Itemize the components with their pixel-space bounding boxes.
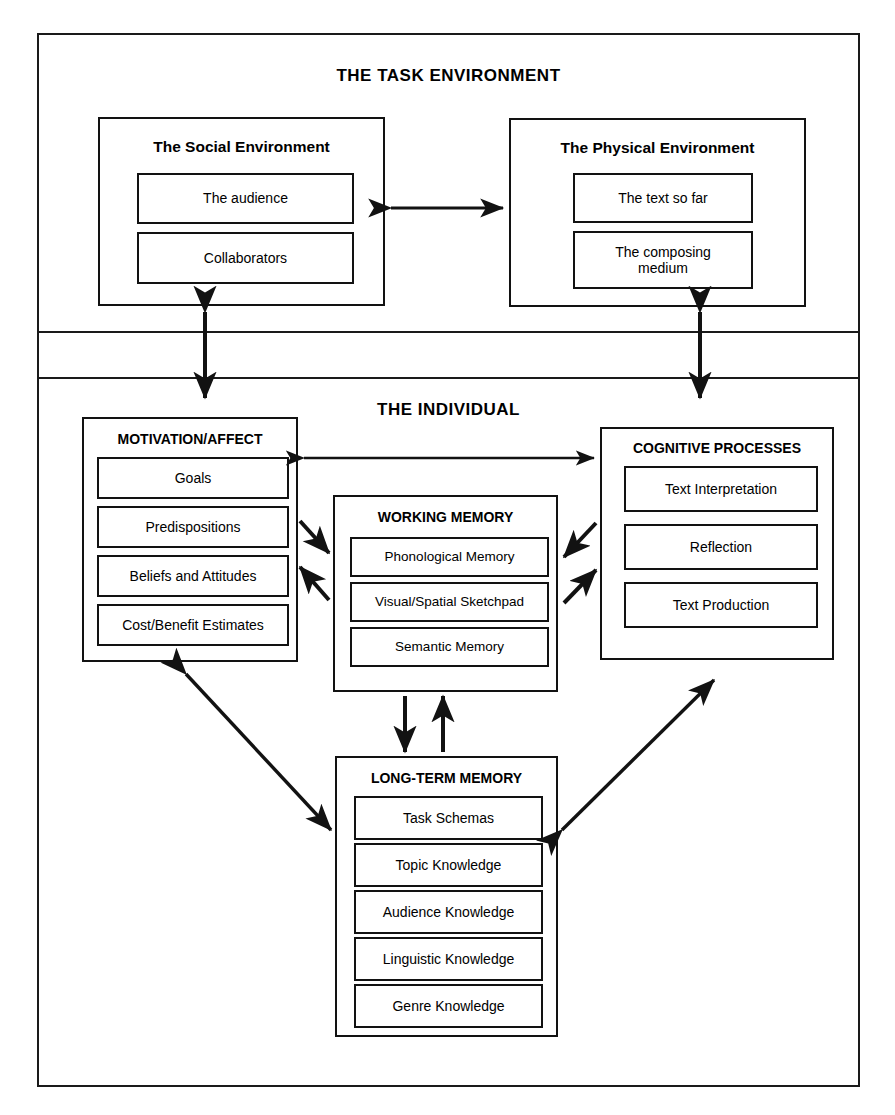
social-item-collaborators: Collaborators xyxy=(137,232,354,284)
divider-lower xyxy=(37,377,860,379)
cognitive-item-text-interpretation: Text Interpretation xyxy=(624,466,818,512)
social-environment-panel: The Social Environment The audience Coll… xyxy=(98,117,385,306)
composing-medium-line2: medium xyxy=(638,260,688,276)
physical-item-composing-medium: The composing medium xyxy=(573,231,753,289)
ltm-item-genre-knowledge: Genre Knowledge xyxy=(354,984,543,1028)
motivation-item-cost-benefit: Cost/Benefit Estimates xyxy=(97,604,289,646)
composing-medium-line1: The composing xyxy=(615,244,711,260)
long-term-memory-panel: LONG-TERM MEMORY Task Schemas Topic Know… xyxy=(335,756,558,1037)
working-memory-item-phonological: Phonological Memory xyxy=(350,537,549,577)
ltm-item-task-schemas: Task Schemas xyxy=(354,796,543,840)
long-term-memory-title: LONG-TERM MEMORY xyxy=(337,770,556,786)
motivation-item-predispositions: Predispositions xyxy=(97,506,289,548)
cognitive-processes-title: COGNITIVE PROCESSES xyxy=(602,440,832,456)
physical-environment-panel: The Physical Environment The text so far… xyxy=(509,118,806,307)
divider-upper xyxy=(37,331,860,333)
ltm-item-linguistic-knowledge: Linguistic Knowledge xyxy=(354,937,543,981)
physical-environment-title: The Physical Environment xyxy=(511,139,804,157)
working-memory-item-semantic: Semantic Memory xyxy=(350,627,549,667)
cognitive-item-reflection: Reflection xyxy=(624,524,818,570)
physical-item-text-so-far: The text so far xyxy=(573,173,753,223)
motivation-affect-title: MOTIVATION/AFFECT xyxy=(84,431,296,447)
working-memory-item-sketchpad: Visual/Spatial Sketchpad xyxy=(350,582,549,622)
social-item-audience: The audience xyxy=(137,173,354,224)
cognitive-item-text-production: Text Production xyxy=(624,582,818,628)
motivation-affect-panel: MOTIVATION/AFFECT Goals Predispositions … xyxy=(82,417,298,662)
working-memory-panel: WORKING MEMORY Phonological Memory Visua… xyxy=(333,495,558,692)
motivation-item-goals: Goals xyxy=(97,457,289,499)
ltm-item-topic-knowledge: Topic Knowledge xyxy=(354,843,543,887)
working-memory-title: WORKING MEMORY xyxy=(335,509,556,525)
cognitive-processes-panel: COGNITIVE PROCESSES Text Interpretation … xyxy=(600,427,834,660)
diagram-canvas: THE TASK ENVIRONMENT The Social Environm… xyxy=(0,0,895,1115)
social-environment-title: The Social Environment xyxy=(100,138,383,156)
task-environment-title: THE TASK ENVIRONMENT xyxy=(37,66,860,86)
motivation-item-beliefs-attitudes: Beliefs and Attitudes xyxy=(97,555,289,597)
ltm-item-audience-knowledge: Audience Knowledge xyxy=(354,890,543,934)
